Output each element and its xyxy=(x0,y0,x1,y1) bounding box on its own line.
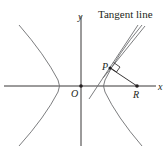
y-axis-label: y xyxy=(77,11,83,22)
origin-label: O xyxy=(71,88,78,99)
diagram-canvas: Tangent line y x O P R xyxy=(0,0,168,146)
tangent-line-label: Tangent line xyxy=(98,8,153,20)
point-r xyxy=(135,84,139,88)
point-r-label: R xyxy=(132,89,139,100)
point-p xyxy=(109,67,112,70)
point-p-label: P xyxy=(101,61,108,72)
origin-point xyxy=(79,84,83,88)
hyperbola-left-branch xyxy=(19,25,60,146)
x-axis-label: x xyxy=(157,81,163,92)
tangent-line xyxy=(89,25,138,99)
asymptote-line xyxy=(103,26,145,78)
